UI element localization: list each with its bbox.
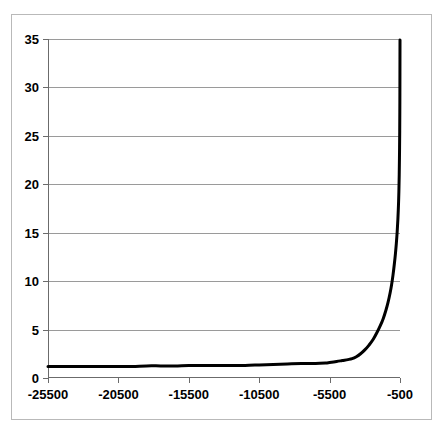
y-axis-tick-label: 15 <box>25 225 39 240</box>
x-axis-tick-label: -5500 <box>313 387 346 402</box>
x-tick-mark--5500 <box>330 378 331 383</box>
x-axis-tick-label: -20500 <box>98 387 138 402</box>
y-axis-tick-label: 5 <box>32 322 39 337</box>
x-tick-mark--10500 <box>259 378 260 383</box>
x-axis-tick-label: -15500 <box>169 387 209 402</box>
plot-area: 35302520151050 -25500-20500-15500-10500-… <box>48 39 400 378</box>
x-axis-tick-label: -500 <box>387 387 413 402</box>
y-axis-tick-label: 20 <box>25 177 39 192</box>
series-path-curve <box>48 40 400 366</box>
x-axis-tick-label: -25500 <box>28 387 68 402</box>
x-tick-mark--20500 <box>118 378 119 383</box>
y-axis-tick-label: 10 <box>25 274 39 289</box>
x-tick-mark--15500 <box>189 378 190 383</box>
x-axis-tick-label: -10500 <box>239 387 279 402</box>
y-axis-tick-label: 0 <box>32 371 39 386</box>
x-tick-mark--25500 <box>48 378 49 383</box>
chart-frame: 35302520151050 -25500-20500-15500-10500-… <box>11 14 432 420</box>
series-line-chart <box>48 39 400 378</box>
y-axis-tick-label: 25 <box>25 128 39 143</box>
x-tick-mark--500 <box>400 378 401 383</box>
y-axis-tick-label: 30 <box>25 80 39 95</box>
y-axis-tick-label: 35 <box>25 32 39 47</box>
